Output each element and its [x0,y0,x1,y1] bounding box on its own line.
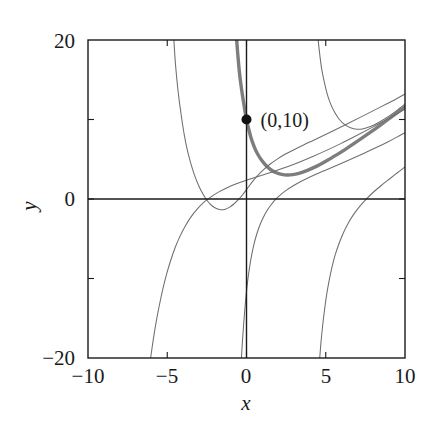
x-tick-label-10: 10 [395,364,416,388]
y-tick-label-0: 0 [65,187,76,211]
y-tick-label-minus-20: −20 [42,346,75,370]
x-tick-label-0: 0 [241,364,252,388]
x-tick-label-minus-5: −5 [156,364,178,388]
y-axis-label: y [17,201,41,213]
figure-container: (0,10) 20 0 −20 −10 −5 0 5 10 x y [0,0,440,421]
x-tick-label-minus-10: −10 [72,364,105,388]
x-tick-label-5: 5 [321,364,332,388]
y-tick-label-20: 20 [54,29,75,53]
x-axis-label: x [240,391,251,415]
solution-curves-plot: (0,10) 20 0 −20 −10 −5 0 5 10 x y [0,0,440,421]
data-point-label: (0,10) [261,109,309,132]
data-point-marker [242,115,252,125]
